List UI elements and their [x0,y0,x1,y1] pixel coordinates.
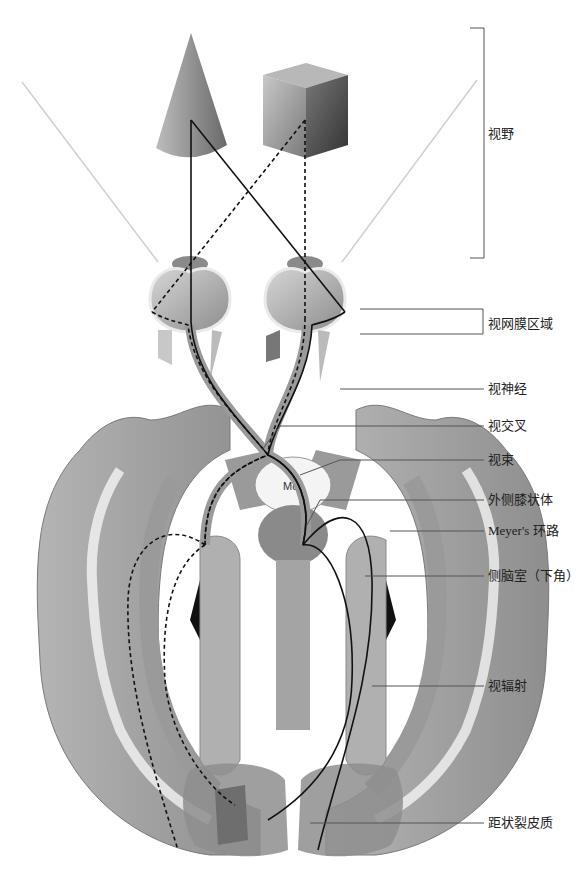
label-meyers-loop: Meyer's 环路 [488,523,559,539]
label-optic-nerve: 视神经 [488,381,527,397]
label-optic-radiation: 视辐射 [488,678,527,694]
occipital-lobes [183,763,403,856]
label-lateral-ventricle: 侧脑室（下角） [488,568,579,584]
midbrain [225,450,361,730]
left-eye [150,256,230,380]
label-lateral-geniculate-body: 外侧膝状体 [488,492,553,508]
label-visual-field: 视野 [488,126,514,142]
visual-field-rays [22,80,477,262]
label-optic-tract: 视束 [488,452,514,468]
label-optic-chiasm: 视交叉 [488,418,527,434]
label-retinal-region: 视网膜区域 [488,316,553,332]
label-calcarine-cortex: 距状裂皮质 [488,815,553,831]
